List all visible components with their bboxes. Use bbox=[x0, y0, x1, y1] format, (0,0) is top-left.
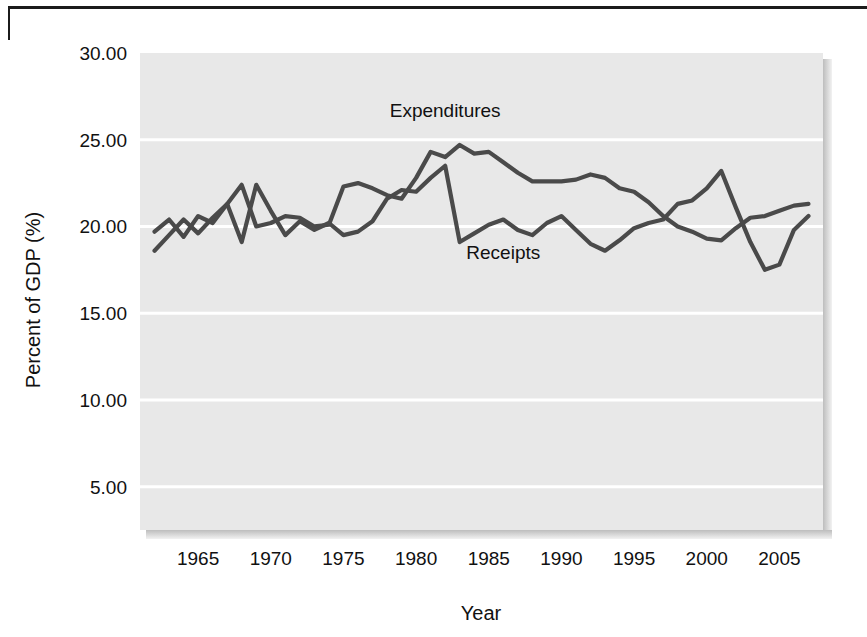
x-tick-label: 2000 bbox=[686, 548, 728, 569]
y-tick-label: 30.00 bbox=[79, 43, 127, 64]
x-tick-label: 2005 bbox=[758, 548, 800, 569]
y-tick-label: 10.00 bbox=[79, 390, 127, 411]
plot-area bbox=[140, 53, 832, 539]
x-axis-tick-labels: 196519701975198019851990199520002005 bbox=[177, 548, 801, 569]
figure-container: 5.0010.0015.0020.0025.0030.00 1965197019… bbox=[0, 0, 867, 637]
x-tick-label: 1965 bbox=[177, 548, 219, 569]
x-axis-title: Year bbox=[461, 602, 502, 624]
y-tick-label: 20.00 bbox=[79, 216, 127, 237]
y-tick-label: 25.00 bbox=[79, 130, 127, 151]
plot-background bbox=[140, 53, 823, 530]
x-tick-label: 1995 bbox=[613, 548, 655, 569]
x-tick-label: 1975 bbox=[322, 548, 364, 569]
y-axis-tick-labels: 5.0010.0015.0020.0025.0030.00 bbox=[79, 43, 127, 498]
plot-right-shadow bbox=[823, 59, 832, 536]
plot-bottom-shadow bbox=[146, 530, 832, 539]
series-annotation-receipts: Receipts bbox=[466, 242, 540, 263]
y-tick-label: 15.00 bbox=[79, 303, 127, 324]
x-tick-label: 1990 bbox=[540, 548, 582, 569]
x-tick-label: 1980 bbox=[395, 548, 437, 569]
y-axis-title: Percent of GDP (%) bbox=[22, 212, 44, 388]
x-tick-label: 1985 bbox=[468, 548, 510, 569]
series-annotation-expenditures: Expenditures bbox=[390, 100, 501, 121]
x-tick-label: 1970 bbox=[250, 548, 292, 569]
line-chart: 5.0010.0015.0020.0025.0030.00 1965197019… bbox=[0, 0, 867, 637]
y-tick-label: 5.00 bbox=[90, 477, 127, 498]
